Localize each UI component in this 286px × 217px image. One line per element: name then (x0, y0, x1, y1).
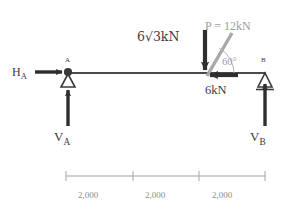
load-horizontal-component-label: 6kN (205, 84, 227, 97)
reaction-va-label: VA (54, 130, 70, 147)
load-vertical-component-label: 6√3kN (137, 31, 179, 44)
angle-label: 60° (222, 57, 237, 68)
dimension-label: 2,000 (192, 190, 252, 200)
applied-load-p-label: P = 12kN (205, 20, 251, 32)
dimension-label: 2,000 (58, 190, 118, 200)
node-b-label: B (261, 57, 266, 64)
reaction-vb-label: VB (250, 130, 266, 147)
applied-load-p-arrow (207, 33, 232, 76)
dimension-label: 2,000 (125, 190, 185, 200)
beam-diagram: HA VA VB A B 6√3kN 6kN P = 12kN 60° 2,00… (0, 0, 286, 217)
node-a-label: A (65, 57, 70, 64)
reaction-ha-label: HA (12, 66, 27, 81)
